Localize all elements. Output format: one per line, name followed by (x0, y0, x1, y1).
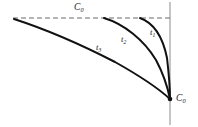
curve-t1-label-subscript: 1 (152, 32, 155, 38)
figure-canvas (0, 0, 198, 127)
curve-t3-label-subscript: 3 (98, 47, 101, 53)
convergence-point-marker (168, 97, 173, 102)
origin-label-subscript: 0 (182, 97, 185, 104)
curve-t2-label: t2 (121, 35, 126, 45)
curve-t3-label: t3 (96, 43, 101, 53)
top-level-label-subscript: 0 (80, 6, 83, 13)
top-level-label: C0 (74, 3, 84, 13)
concentration-profile-figure: C0 C0 t1 t2 t3 (0, 0, 198, 127)
curve-t2-label-subscript: 2 (123, 39, 126, 45)
curve-t1-label: t1 (150, 28, 155, 38)
origin-label: C0 (176, 94, 186, 104)
